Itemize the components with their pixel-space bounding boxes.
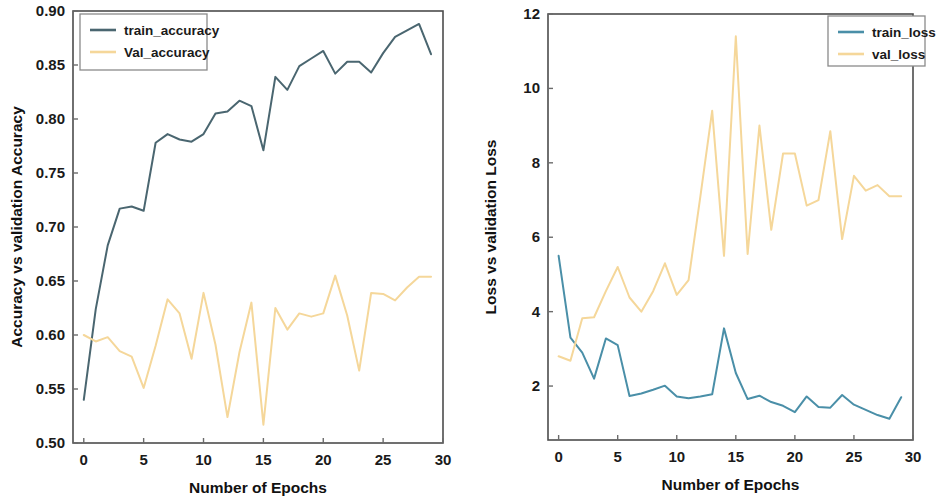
y-tick-label: 0.65 [36, 272, 65, 289]
y-tick-label: 0.50 [36, 434, 65, 451]
y-tick-label: 4 [532, 303, 541, 320]
figure-root: 0510152025300.500.550.600.650.700.750.80… [0, 0, 939, 500]
y-tick-label: 8 [532, 154, 540, 171]
loss-y-axis-label: Loss vs validation Loss [482, 140, 499, 315]
y-tick-label: 6 [532, 228, 540, 245]
loss-plot-frame [548, 14, 913, 440]
x-tick-label: 15 [727, 448, 744, 465]
legend-label-Val_accuracy: Val_accuracy [124, 45, 210, 60]
x-tick-label: 25 [846, 448, 863, 465]
y-tick-label: 2 [532, 377, 540, 394]
accuracy-plot: 0510152025300.500.550.600.650.700.750.80… [0, 0, 470, 500]
accuracy-chart-panel: 0510152025300.500.550.600.650.700.750.80… [0, 0, 470, 500]
y-tick-label: 0.55 [36, 380, 65, 397]
y-tick-label: 0.70 [36, 218, 65, 235]
legend-label-val_loss: val_loss [872, 47, 925, 62]
x-tick-label: 20 [315, 451, 332, 468]
loss-legend: train_lossval_loss [828, 16, 936, 66]
series-line-train_accuracy [84, 24, 431, 400]
loss-x-axis-label: Number of Epochs [662, 476, 800, 493]
x-tick-label: 15 [255, 451, 272, 468]
y-tick-label: 10 [523, 79, 540, 96]
x-tick-label: 0 [80, 451, 88, 468]
x-tick-label: 5 [614, 448, 622, 465]
series-line-train_loss [559, 256, 902, 419]
x-tick-label: 30 [905, 448, 922, 465]
x-tick-label: 0 [554, 448, 562, 465]
accuracy-y-axis-label: Accuracy vs validation Accuracy [8, 106, 25, 348]
loss-chart-panel: 05101520253024681012Number of EpochsLoss… [470, 0, 939, 500]
x-tick-label: 10 [195, 451, 212, 468]
x-tick-label: 20 [787, 448, 804, 465]
y-tick-label: 0.80 [36, 110, 65, 127]
y-tick-label: 12 [523, 5, 540, 22]
x-tick-label: 30 [435, 451, 452, 468]
loss-plot: 05101520253024681012Number of EpochsLoss… [470, 0, 939, 500]
y-tick-label: 0.90 [36, 2, 65, 19]
y-tick-label: 0.75 [36, 164, 65, 181]
legend-label-train_loss: train_loss [872, 25, 936, 40]
x-tick-label: 5 [139, 451, 147, 468]
x-tick-label: 10 [668, 448, 685, 465]
series-line-Val_accuracy [84, 276, 431, 425]
series-line-val_loss [559, 36, 902, 360]
accuracy-x-axis-label: Number of Epochs [189, 479, 327, 496]
y-tick-label: 0.85 [36, 56, 65, 73]
accuracy-legend: train_accuracyVal_accuracy [80, 14, 220, 70]
x-tick-label: 25 [375, 451, 392, 468]
y-tick-label: 0.60 [36, 326, 65, 343]
legend-label-train_accuracy: train_accuracy [124, 23, 220, 38]
